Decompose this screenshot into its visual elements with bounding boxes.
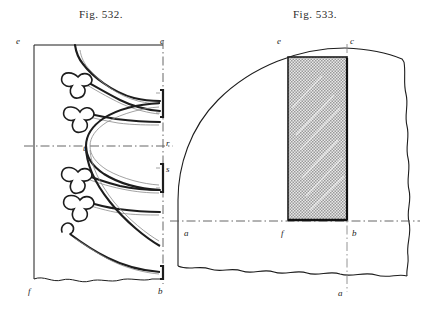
fig533-broken-bottom-edge <box>178 266 407 276</box>
fig532-label-s: s <box>166 164 170 174</box>
fig533-label-a-left: a <box>184 228 189 238</box>
fig532-upper-mullion-head <box>160 90 163 117</box>
fig533-label-b: b <box>352 228 357 238</box>
fig532-bottom-arch-inner <box>90 150 159 241</box>
fig532-cusp-arm-5 <box>70 234 160 272</box>
fig532-label-r: r <box>166 138 170 148</box>
fig532-broken-bottom-edge <box>34 278 163 282</box>
fig532-bottom-cusp-hook <box>62 223 74 234</box>
engraving-plate: Fig. 532. Fig. 533. <box>0 0 441 317</box>
fig532-label-b: b <box>158 286 163 296</box>
fig532-bottom-mullion-stub <box>160 266 163 279</box>
fig532-label-e: e <box>16 36 20 46</box>
fig532-lower-upper-sweep-fillet <box>90 146 159 185</box>
fig532-trefoil-bud-2 <box>64 107 94 132</box>
fig533-label-c: c <box>350 36 354 46</box>
figure-533-drawing <box>170 44 420 292</box>
fig532-trefoil-bud-3 <box>62 168 92 194</box>
fig533-label-f: f <box>281 228 284 238</box>
fig532-trefoil-bud-1 <box>62 73 92 98</box>
plate-drawing <box>0 0 441 317</box>
fig533-label-a-bottom: a <box>338 288 343 298</box>
fig532-lower-mullion-head <box>160 164 163 192</box>
fig533-label-e: e <box>277 36 281 46</box>
fig532-label-c: c <box>160 36 164 46</box>
fig532-bottom-arch-outer <box>86 146 160 246</box>
fig533-broken-right-edge <box>404 62 410 276</box>
figure-532-drawing <box>24 40 173 284</box>
fig532-label-f: f <box>28 286 31 296</box>
fig532-cusp-arm-5-fillet <box>74 238 159 274</box>
fig533-top-right-edge <box>345 48 404 62</box>
fig532-label-t: t <box>83 143 86 153</box>
fig532-trefoil-bud-4 <box>64 196 94 222</box>
